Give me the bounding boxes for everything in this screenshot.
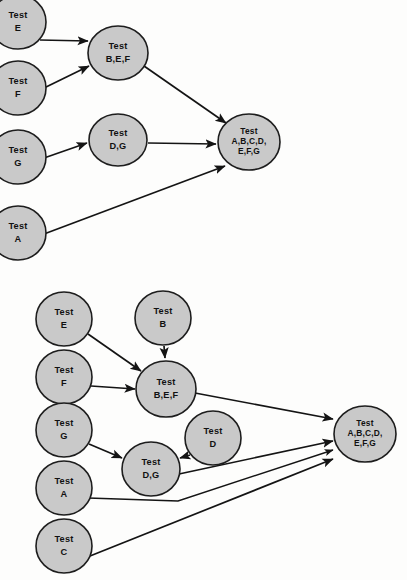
node-test-d[interactable]: TestD bbox=[185, 411, 241, 465]
edge-g-to-dg bbox=[44, 143, 87, 158]
node-test-a-label-line-1: A bbox=[61, 489, 68, 499]
node-test-all-label-line-0: Test bbox=[240, 126, 257, 136]
figure-canvas: TestETestFTestGTestATestB,E,FTestD,GTest… bbox=[0, 0, 407, 580]
node-group: TestETestFTestGTestATestB,E,FTestD,GTest… bbox=[0, 0, 280, 260]
node-test-b-label-line-1: B bbox=[160, 319, 167, 329]
node-test-dg[interactable]: TestD,G bbox=[89, 114, 147, 166]
node-test-e-label-line-1: E bbox=[15, 23, 21, 33]
node-test-g-shape[interactable] bbox=[0, 130, 46, 184]
edge-bef-to-all bbox=[144, 66, 226, 123]
node-test-dg-label-line-1: D,G bbox=[143, 470, 160, 480]
node-test-dg-label-line-0: Test bbox=[141, 457, 160, 467]
node-test-f-label-line-1: F bbox=[61, 378, 67, 388]
node-test-a-label-line-1: A bbox=[15, 234, 22, 244]
node-test-b-label-line-0: Test bbox=[153, 306, 172, 316]
node-test-d-label-line-1: D bbox=[210, 439, 217, 449]
edge-e-to-bef bbox=[40, 40, 88, 41]
node-test-e-label-line-0: Test bbox=[54, 307, 73, 317]
node-test-e-label-line-0: Test bbox=[8, 10, 27, 20]
node-test-f[interactable]: TestF bbox=[36, 350, 92, 404]
diagram-svg: TestETestFTestGTestATestB,E,FTestD,GTest… bbox=[0, 0, 407, 580]
node-test-e[interactable]: TestE bbox=[0, 0, 46, 49]
node-test-a-label-line-0: Test bbox=[54, 476, 73, 486]
node-test-all[interactable]: TestA,B,C,D,E,F,G bbox=[334, 406, 396, 462]
node-test-f-shape[interactable] bbox=[0, 61, 46, 115]
node-test-e-label-line-1: E bbox=[61, 320, 67, 330]
edge-g-to-dg bbox=[89, 444, 122, 458]
node-test-g-label-line-1: G bbox=[60, 431, 67, 441]
edge-d-to-dg bbox=[180, 455, 190, 458]
node-group: TestETestBTestFTestB,E,FTestGTestDTestD,… bbox=[36, 291, 396, 573]
node-test-f-label-line-0: Test bbox=[54, 365, 73, 375]
node-test-dg-label-line-0: Test bbox=[108, 128, 127, 138]
edge-f-to-bef bbox=[44, 66, 89, 88]
node-test-bef-label-line-1: B,E,F bbox=[106, 54, 131, 64]
node-test-f-label-line-0: Test bbox=[8, 76, 27, 86]
node-test-all-label-line-2: E,F,G bbox=[354, 438, 376, 448]
node-test-all-label-line-1: A,B,C,D, bbox=[347, 428, 382, 438]
node-test-a[interactable]: TestA bbox=[0, 206, 46, 260]
node-test-f-label-line-1: F bbox=[15, 89, 21, 99]
node-test-d-label-line-0: Test bbox=[203, 426, 222, 436]
node-test-all-label-line-1: A,B,C,D, bbox=[231, 136, 266, 146]
node-test-bef[interactable]: TestB,E,F bbox=[136, 361, 196, 417]
node-test-c-label-line-1: C bbox=[61, 547, 68, 557]
edge-b-to-bef bbox=[164, 346, 165, 358]
node-test-g[interactable]: TestG bbox=[0, 130, 46, 184]
node-test-dg[interactable]: TestD,G bbox=[122, 442, 180, 496]
node-test-a-label-line-0: Test bbox=[8, 221, 27, 231]
node-test-a-shape[interactable] bbox=[0, 206, 46, 260]
node-test-c-label-line-0: Test bbox=[54, 534, 73, 544]
edge-dg-to-all bbox=[148, 143, 216, 144]
node-test-bef[interactable]: TestB,E,F bbox=[88, 26, 148, 80]
bottom-diagram: TestETestBTestFTestB,E,FTestGTestDTestD,… bbox=[36, 291, 396, 573]
top-diagram: TestETestFTestGTestATestB,E,FTestD,GTest… bbox=[0, 0, 280, 260]
node-test-bef-label-line-1: B,E,F bbox=[154, 390, 179, 400]
node-test-g-label-line-1: G bbox=[14, 158, 21, 168]
node-test-g-label-line-0: Test bbox=[8, 145, 27, 155]
edge-f-to-bef bbox=[91, 386, 135, 389]
node-test-a[interactable]: TestA bbox=[36, 461, 92, 515]
node-test-f[interactable]: TestF bbox=[0, 61, 46, 115]
node-test-c[interactable]: TestC bbox=[36, 519, 92, 573]
node-test-all-label-line-2: E,F,G bbox=[238, 146, 260, 156]
node-test-bef-label-line-0: Test bbox=[108, 41, 127, 51]
node-test-all[interactable]: TestA,B,C,D,E,F,G bbox=[218, 114, 280, 170]
node-test-all-label-line-0: Test bbox=[356, 418, 373, 428]
edge-a-to-all bbox=[44, 166, 225, 234]
node-test-e[interactable]: TestE bbox=[36, 292, 92, 346]
node-test-g-label-line-0: Test bbox=[54, 418, 73, 428]
node-test-e-shape[interactable] bbox=[0, 0, 46, 49]
node-test-bef-label-line-0: Test bbox=[156, 377, 175, 387]
node-test-b[interactable]: TestB bbox=[135, 291, 191, 345]
node-test-dg-label-line-1: D,G bbox=[110, 141, 127, 151]
edge-e-to-bef bbox=[88, 334, 141, 371]
node-test-g[interactable]: TestG bbox=[36, 403, 92, 457]
